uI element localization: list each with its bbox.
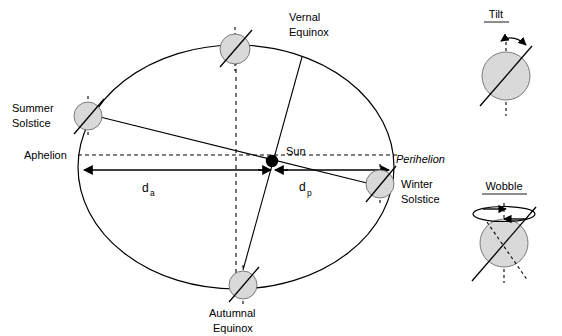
aphelion-label: Aphelion — [24, 149, 67, 161]
earth-summer-solstice — [74, 96, 104, 137]
figure-canvas: Sun Vernal Equinox Summer Solstice Autum… — [0, 0, 562, 336]
winter-solstice-label-line1: Winter — [401, 178, 433, 190]
aphelion-distance-label: d a — [142, 181, 155, 198]
orbit-diagram: Sun Vernal Equinox Summer Solstice Autum… — [0, 0, 562, 336]
sun-marker — [266, 155, 278, 167]
aphelion-distance-subscript: a — [150, 188, 155, 198]
perihelion-distance-label: d p — [299, 180, 312, 198]
winter-solstice-label-line2: Solstice — [401, 193, 440, 205]
summer-solstice-label-line1: Summer — [12, 102, 54, 114]
vernal-equinox-label-line1: Vernal — [289, 11, 320, 23]
tilt-angle-arrow — [501, 38, 526, 45]
sun-label: Sun — [286, 145, 306, 157]
summer-solstice-label-line2: Solstice — [12, 117, 51, 129]
tilt-panel: Tilt — [480, 8, 532, 116]
tilt-panel-title: Tilt — [489, 8, 503, 20]
wobble-panel-title: Wobble — [485, 180, 522, 192]
wobble-earth — [480, 219, 528, 267]
earth-autumnal-equinox — [229, 265, 259, 305]
vernal-equinox-label-line2: Equinox — [289, 26, 329, 38]
aphelion-distance-symbol: d — [142, 181, 149, 195]
earth-vernal-equinox — [220, 27, 252, 71]
autumnal-equinox-label-line1: Autumnal — [209, 307, 255, 319]
perihelion-distance-subscript: p — [307, 188, 312, 198]
autumnal-equinox-label-line2: Equinox — [213, 322, 253, 334]
perihelion-distance-symbol: d — [299, 180, 306, 194]
wobble-panel: Wobble — [472, 180, 536, 283]
perihelion-label: Perihelion — [396, 153, 445, 165]
